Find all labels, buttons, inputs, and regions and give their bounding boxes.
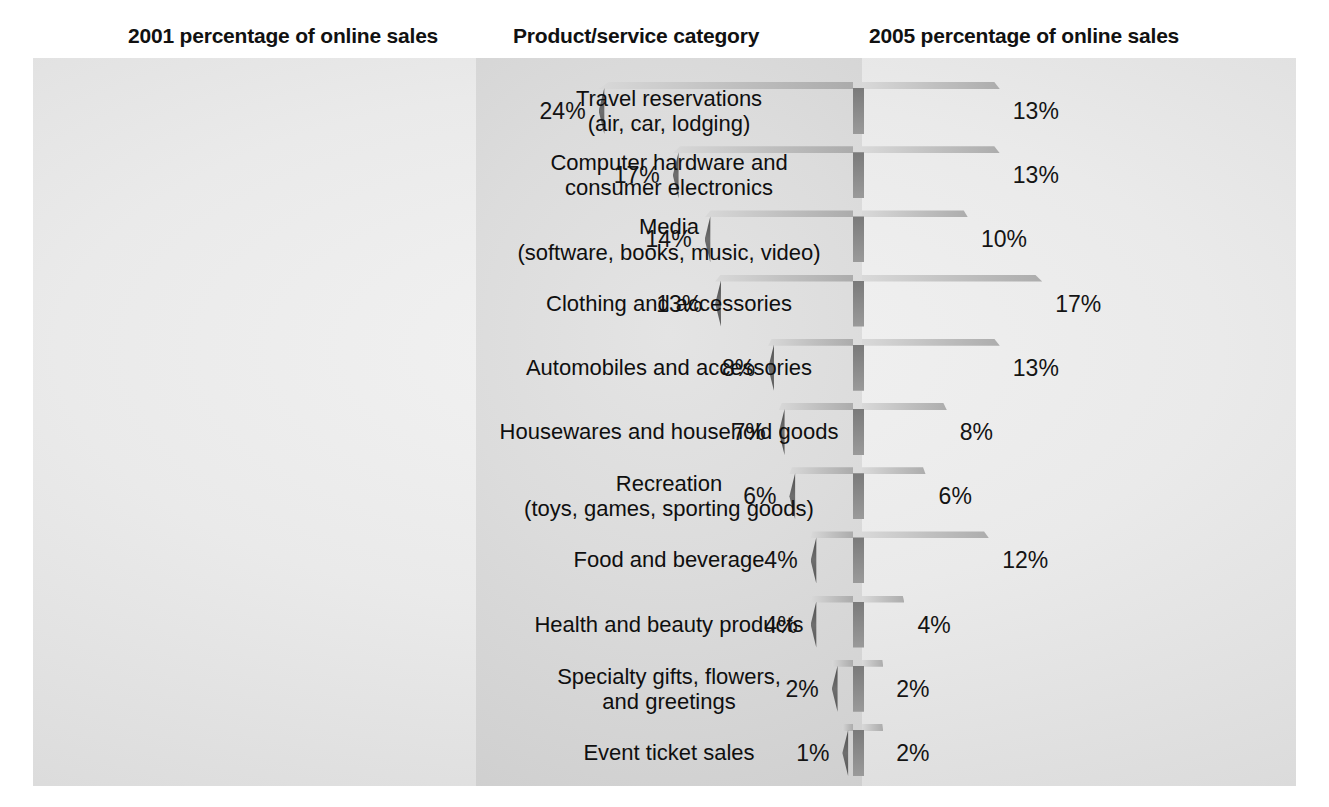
chart-row: 2%Specialty gifts, flowers, and greeting…	[33, 660, 1296, 718]
column-header-category: Product/service category	[513, 24, 759, 48]
bar-tail-2005	[853, 281, 864, 327]
chart-row: 17%Computer hardware and consumer electr…	[33, 146, 1296, 204]
bar-bevel-2005	[862, 82, 1000, 89]
category-label: Computer hardware and consumer electroni…	[476, 150, 862, 201]
chart-row: 4%Food and beverage12%	[33, 531, 1296, 589]
bar-bevel-2005	[862, 146, 1000, 153]
bar-tail-2005	[853, 602, 864, 648]
bar-bevel-2005	[862, 210, 968, 217]
value-label-2005: 10%	[981, 226, 1027, 253]
value-label-2005: 2%	[896, 740, 929, 767]
bar-2005: 8%	[862, 403, 947, 461]
chart-row: 1%Event ticket sales2%	[33, 724, 1296, 782]
chart-row: 14%Media (software, books, music, video)…	[33, 210, 1296, 268]
value-label-2005: 8%	[960, 419, 993, 446]
chart-row: 8%Automobiles and accessories13%	[33, 339, 1296, 397]
column-header-2001: 2001 percentage of online sales	[128, 24, 438, 48]
bar-bevel-2005	[862, 531, 989, 538]
category-label: Automobiles and accessories	[476, 355, 862, 380]
category-label: Health and beauty products	[476, 612, 862, 637]
value-label-2005: 13%	[1013, 98, 1059, 125]
bar-tail-2005	[853, 666, 864, 712]
category-label: Housewares and household goods	[476, 419, 862, 444]
bar-2005: 10%	[862, 210, 968, 268]
bar-tail-2005	[853, 152, 864, 198]
category-label: Travel reservations (air, car, lodging)	[476, 86, 862, 137]
bar-tail-2005	[853, 216, 864, 262]
bar-bevel-2001	[811, 531, 853, 538]
bar-2005: 2%	[862, 724, 883, 782]
bar-2005: 6%	[862, 467, 926, 525]
bar-bevel-2005	[862, 275, 1042, 282]
bar-tail-2005	[853, 473, 864, 519]
chart-figure: 2001 percentage of online sales Product/…	[0, 0, 1329, 807]
bar-bevel-2001	[842, 724, 853, 731]
chart-row: 13%Clothing and accessories17%	[33, 275, 1296, 333]
bar-tail-2005	[853, 88, 864, 134]
category-label: Food and beverage	[476, 548, 862, 573]
bar-2005: 2%	[862, 660, 883, 718]
category-label: Media (software, books, music, video)	[476, 214, 862, 265]
bar-bevel-2005	[862, 403, 947, 410]
value-label-2005: 4%	[917, 611, 950, 638]
column-header-2005: 2005 percentage of online sales	[869, 24, 1179, 48]
bar-tail-2005	[853, 730, 864, 776]
bar-bevel-2005	[862, 660, 883, 667]
value-label-2005: 2%	[896, 675, 929, 702]
bar-bevel-2005	[862, 339, 1000, 346]
bar-bevel-2005	[862, 596, 904, 603]
bar-2005: 12%	[862, 531, 989, 589]
category-label: Specialty gifts, flowers, and greetings	[476, 664, 862, 715]
value-label-2005: 12%	[1002, 547, 1048, 574]
bar-tail-2005	[853, 409, 864, 455]
bar-2005: 13%	[862, 339, 1000, 397]
bar-2005: 4%	[862, 596, 904, 654]
bar-bevel-2005	[862, 724, 883, 731]
bar-2005: 13%	[862, 146, 1000, 204]
chart-row: 7%Housewares and household goods8%	[33, 403, 1296, 461]
chart-row: 4%Health and beauty products4%	[33, 596, 1296, 654]
bar-2005: 13%	[862, 82, 1000, 140]
bar-2005: 17%	[862, 275, 1042, 333]
value-label-2005: 6%	[939, 483, 972, 510]
bar-bevel-2001	[715, 275, 853, 282]
category-label: Event ticket sales	[476, 740, 862, 765]
bar-bevel-2001	[779, 403, 853, 410]
bar-tail-2005	[853, 537, 864, 583]
chart-panel: 24%Travel reservations (air, car, lodgin…	[33, 58, 1296, 786]
bar-tail-2005	[853, 345, 864, 391]
value-label-2005: 17%	[1055, 290, 1101, 317]
value-label-2005: 13%	[1013, 162, 1059, 189]
category-label: Clothing and accessories	[476, 291, 862, 316]
bar-bevel-2005	[862, 467, 926, 474]
value-label-2005: 13%	[1013, 354, 1059, 381]
category-label: Recreation (toys, games, sporting goods)	[476, 471, 862, 522]
chart-row: 6%Recreation (toys, games, sporting good…	[33, 467, 1296, 525]
bar-bevel-2001	[811, 596, 853, 603]
bar-bevel-2001	[768, 339, 853, 346]
chart-row: 24%Travel reservations (air, car, lodgin…	[33, 82, 1296, 140]
